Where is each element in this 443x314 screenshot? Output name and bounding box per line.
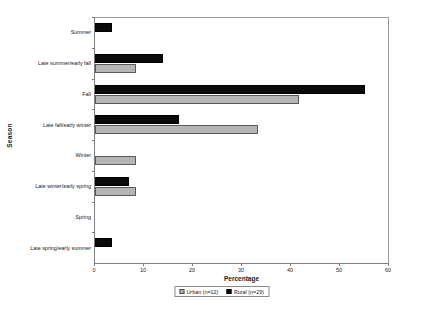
x-axis-tick-label: 30 bbox=[238, 267, 244, 273]
category-row: Fall bbox=[95, 79, 388, 110]
y-axis-tick bbox=[92, 109, 95, 110]
category-row: Winter bbox=[95, 140, 388, 171]
legend-label: Urban (n=12) bbox=[186, 289, 218, 295]
y-axis-tick-label: Late summer/early fall bbox=[38, 60, 91, 66]
legend-swatch-urban bbox=[179, 289, 184, 294]
x-axis-tick bbox=[339, 263, 340, 266]
plot-area: SummerLate summer/early fallFallLate fal… bbox=[94, 17, 388, 263]
y-axis-tick-label: Summer bbox=[71, 29, 91, 35]
bar-rural bbox=[95, 177, 129, 186]
x-axis-tick-label: 60 bbox=[385, 267, 391, 273]
bar-urban bbox=[95, 187, 136, 196]
x-axis-tick-label: 0 bbox=[93, 267, 96, 273]
bar-urban bbox=[95, 156, 136, 165]
bar-rural bbox=[95, 238, 112, 247]
y-axis-title: Season bbox=[2, 0, 16, 270]
category-row: Late fall/early winter bbox=[95, 109, 388, 140]
y-axis-tick bbox=[92, 202, 95, 203]
y-axis-tick-label: Late fall/early winter bbox=[43, 122, 91, 128]
y-axis-tick bbox=[92, 17, 95, 18]
category-row: Spring bbox=[95, 202, 388, 233]
plot-right-border bbox=[388, 17, 389, 264]
x-axis-tick bbox=[241, 263, 242, 266]
bar-urban bbox=[95, 64, 136, 73]
x-axis-tick-label: 10 bbox=[140, 267, 146, 273]
x-axis-tick bbox=[290, 263, 291, 266]
y-axis-tick bbox=[92, 232, 95, 233]
bar-chart: Season SummerLate summer/early fallFallL… bbox=[0, 0, 443, 314]
x-axis-tick-label: 50 bbox=[336, 267, 342, 273]
legend-entry: Urban (n=12) bbox=[179, 289, 218, 295]
category-row: Late winter/early spring bbox=[95, 171, 388, 202]
bar-rural bbox=[95, 23, 112, 32]
y-axis-tick bbox=[92, 48, 95, 49]
x-axis-tick-label: 20 bbox=[189, 267, 195, 273]
y-axis-tick bbox=[92, 171, 95, 172]
bar-urban bbox=[95, 125, 258, 134]
y-axis-title-text: Season bbox=[6, 123, 13, 147]
y-axis-tick-label: Spring bbox=[75, 214, 91, 220]
y-axis-tick-label: Fall bbox=[82, 91, 91, 97]
bar-rural bbox=[95, 54, 163, 63]
category-row: Late summer/early fall bbox=[95, 48, 388, 79]
category-row: Late spring/early summer bbox=[95, 232, 388, 263]
x-axis-tick bbox=[192, 263, 193, 266]
category-row: Summer bbox=[95, 17, 388, 48]
x-axis-title: Percentage bbox=[94, 275, 389, 282]
bar-rural bbox=[95, 85, 365, 94]
bar-urban bbox=[95, 95, 299, 104]
x-axis-tick bbox=[143, 263, 144, 266]
bar-rural bbox=[95, 115, 179, 124]
y-axis-tick-label: Late spring/early summer bbox=[30, 245, 91, 251]
legend-swatch-rural bbox=[226, 289, 231, 294]
x-axis-tick-label: 40 bbox=[287, 267, 293, 273]
legend-entry: Rural (n=29) bbox=[226, 289, 264, 295]
chart-legend: Urban (n=12)Rural (n=29) bbox=[174, 286, 269, 297]
legend-label: Rural (n=29) bbox=[234, 289, 264, 295]
y-axis-tick-label: Winter bbox=[75, 152, 91, 158]
x-axis-tick bbox=[388, 263, 389, 266]
x-axis-tick bbox=[94, 263, 95, 266]
y-axis-tick bbox=[92, 79, 95, 80]
y-axis-tick bbox=[92, 140, 95, 141]
y-axis-tick-label: Late winter/early spring bbox=[35, 183, 91, 189]
